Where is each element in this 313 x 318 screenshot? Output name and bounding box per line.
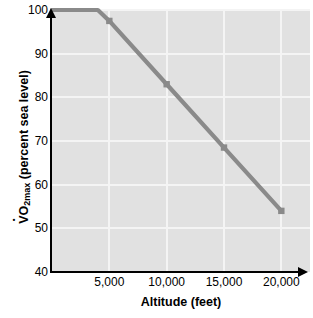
x-axis-tick-label: 10,000 [137,276,197,289]
series-line [52,10,281,211]
y-axis-tick-label: 40 [4,266,48,278]
y-axis-title: VO2max (percent sea level) [17,37,31,257]
data-point-marker [278,208,284,214]
y-axis-line [50,16,52,272]
x-axis-tick-label: 5,000 [79,276,139,289]
data-point-marker [163,81,169,87]
x-axis-line [50,271,300,273]
x-axis-title: Altitude (feet) [52,295,310,309]
y-axis-tick-label: 100 [4,4,48,16]
chart-container: 405060708090100 5,00010,00015,00020,000 … [0,0,313,318]
x-axis-tick-label: 15,000 [194,276,254,289]
v-dot-glyph: V [17,216,31,224]
x-axis-tick-label: 20,000 [251,276,311,289]
y-axis-title-subscript: 2max [22,183,32,206]
data-point-marker [221,144,227,150]
y-axis-title-units: (percent sea level) [17,70,31,183]
data-point-marker [106,18,112,24]
